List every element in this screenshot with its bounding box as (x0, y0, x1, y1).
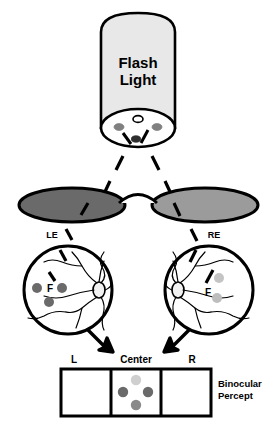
left-optic-disc (93, 282, 105, 298)
right-eye-label: RE (208, 230, 221, 240)
percept-dot-right (143, 387, 153, 397)
ray-right-seg4 (191, 229, 197, 241)
binocular-percept-caption: Binocular Percept (218, 378, 262, 401)
left-fovea-label: F (47, 283, 53, 294)
diagram-canvas: Flash Light LE RE (0, 0, 277, 429)
left-to-percept-arrow (88, 330, 113, 352)
left-eye-label: LE (46, 230, 58, 240)
position-label-center: Center (120, 354, 152, 365)
right-dot-above-fovea (214, 273, 224, 283)
flashlight-label-line2: Light (120, 71, 157, 88)
right-fovea-label: F (205, 287, 211, 298)
percept-dot-top (131, 375, 141, 385)
right-retina-group: F (165, 246, 253, 334)
right-gray-bulb-icon (152, 124, 162, 131)
percept-dot-bottom (131, 400, 141, 410)
right-optic-disc (172, 282, 184, 298)
position-label-left: L (71, 354, 77, 365)
percept-arrows-group (88, 330, 189, 352)
right-lens (152, 188, 258, 222)
percept-position-labels: L Center R (71, 354, 196, 365)
binocular-vision-diagram: Flash Light LE RE (0, 0, 277, 429)
right-dot-below-fovea (212, 293, 222, 303)
ray-left-seg1 (116, 156, 123, 170)
position-label-right: R (188, 354, 196, 365)
right-to-percept-arrow (164, 330, 189, 352)
left-dot-below-fovea (44, 297, 54, 307)
center-white-bulb-icon (133, 116, 143, 123)
flashlight-label-line1: Flash (118, 54, 157, 71)
percept-dot-left (118, 387, 128, 397)
ray-left-seg4 (66, 229, 72, 240)
left-gray-bulb-icon (114, 124, 124, 131)
light-rays-group (103, 156, 172, 196)
eye-side-labels: LE RE (46, 229, 220, 241)
nose-bridge (119, 195, 157, 204)
flashlight-group: Flash Light (101, 13, 175, 147)
percept-caption-line1: Binocular (218, 378, 262, 389)
lens-pair-group (19, 188, 258, 222)
left-dot-left-of-fovea (32, 283, 42, 293)
bottom-black-bulb-icon (131, 136, 140, 142)
binocular-percept-box (61, 369, 211, 416)
left-dot-right-of-fovea (57, 283, 67, 293)
percept-caption-line2: Percept (218, 390, 254, 401)
left-lens (19, 188, 125, 222)
ray-right-seg1 (152, 156, 159, 170)
left-retina-group: F (24, 246, 112, 334)
